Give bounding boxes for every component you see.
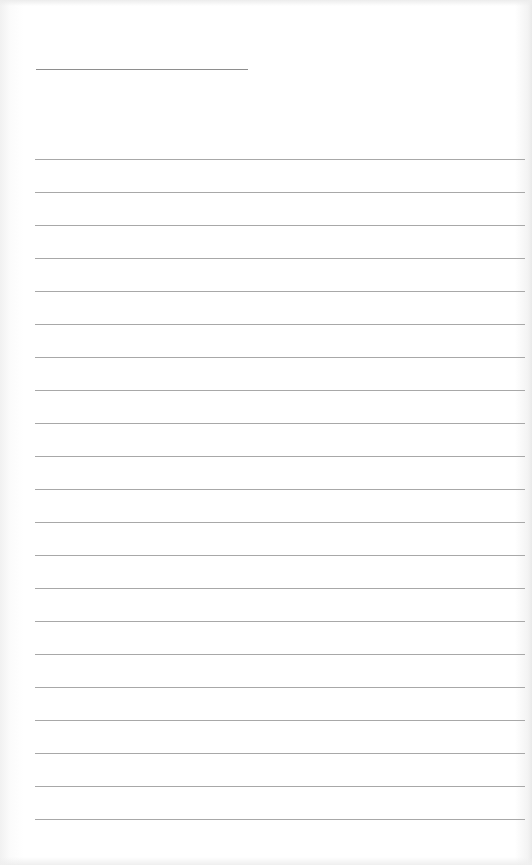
ruled-line — [35, 654, 525, 655]
page-bottom-edge — [0, 857, 532, 865]
ruled-line — [35, 489, 525, 490]
ruled-line — [35, 390, 525, 391]
ruled-line — [35, 819, 525, 820]
ruled-line — [35, 258, 525, 259]
ruled-line — [35, 291, 525, 292]
page-top-edge — [0, 0, 532, 6]
lined-paper-page — [0, 0, 532, 865]
ruled-line — [35, 588, 525, 589]
ruled-line — [35, 456, 525, 457]
ruled-line — [35, 687, 525, 688]
ruled-line — [35, 522, 525, 523]
ruled-line — [35, 786, 525, 787]
ruled-line — [35, 357, 525, 358]
ruled-line — [35, 720, 525, 721]
title-underline — [36, 69, 248, 70]
ruled-line — [35, 192, 525, 193]
ruled-line — [35, 423, 525, 424]
ruled-line — [35, 555, 525, 556]
ruled-line — [35, 324, 525, 325]
ruled-line — [35, 621, 525, 622]
ruled-line — [35, 159, 525, 160]
ruled-line — [35, 753, 525, 754]
ruled-line — [35, 225, 525, 226]
